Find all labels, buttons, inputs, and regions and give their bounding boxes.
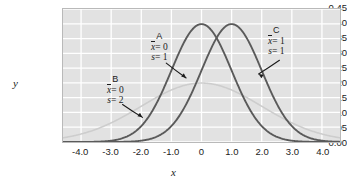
- x-tick-label: 4.0: [303, 146, 343, 157]
- plot-area: A x= 0 s= 1 B x= 0 s= 2 C x= 1 s= 1: [62, 8, 341, 143]
- normal-distribution-chart: 0.000.050.100.150.200.250.300.350.400.45…: [0, 0, 347, 190]
- annotation-c-sd-value: = 1: [272, 46, 284, 56]
- annotation-a-mean-value: = 0: [155, 42, 167, 52]
- annotation-a-sd: s= 1: [151, 52, 168, 63]
- annotation-c-sd: s= 1: [268, 46, 285, 57]
- annotation-arrows: [63, 9, 340, 142]
- annotation-series-a: A x= 0 s= 1: [151, 31, 168, 63]
- annotation-series-b: B x= 0 s= 2: [107, 74, 124, 106]
- x-axis-title: x: [0, 166, 347, 178]
- annotation-b-mean-value: = 0: [111, 85, 123, 95]
- annotation-b-sd: s= 2: [107, 95, 124, 106]
- annotation-c-mean: x= 1: [268, 36, 285, 47]
- annotation-a-sd-value: = 1: [155, 52, 167, 62]
- y-axis-title: y: [13, 77, 18, 89]
- annotation-a-mean: x= 0: [151, 42, 168, 53]
- annotation-c-mean-value: = 1: [272, 36, 284, 46]
- annotation-b-sd-value: = 2: [111, 95, 123, 105]
- annotation-b-mean: x= 0: [107, 85, 124, 96]
- x-bar-symbol-c: x: [268, 36, 272, 47]
- annotation-series-c: C x= 1 s= 1: [268, 25, 285, 57]
- x-bar-symbol-a: x: [151, 42, 155, 53]
- x-bar-symbol-b: x: [107, 85, 111, 96]
